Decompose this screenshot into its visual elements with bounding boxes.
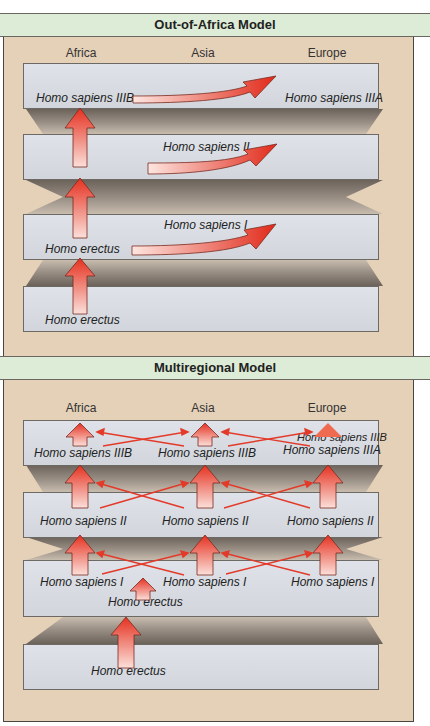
- curved-arrow-icon: [148, 144, 277, 174]
- arrowhead-icon: [181, 551, 188, 557]
- arrowhead-icon: [222, 551, 229, 557]
- up-arrow-icon: [65, 258, 95, 314]
- arrowhead-icon: [305, 429, 312, 435]
- arrowhead-icon: [97, 429, 104, 435]
- up-arrow-icon: [65, 178, 95, 238]
- up-arrow-icon: [190, 535, 220, 575]
- arrowhead-icon: [305, 481, 312, 487]
- curved-arrow-icon: [133, 76, 276, 103]
- up-arrow-icon: [314, 423, 342, 437]
- arrowhead-icon: [181, 429, 188, 435]
- arrowhead-icon: [97, 481, 104, 487]
- up-arrow-icon: [313, 465, 343, 508]
- migration-line: [102, 553, 186, 574]
- up-arrow-icon: [130, 578, 156, 600]
- up-arrow-icon: [191, 423, 219, 446]
- arrowhead-icon: [222, 429, 229, 435]
- arrows-layer: [0, 0, 430, 726]
- up-arrow-icon: [65, 535, 95, 575]
- up-arrow-icon: [66, 423, 94, 446]
- curved-arrow-icon: [132, 224, 276, 255]
- arrowhead-icon: [305, 551, 312, 557]
- up-arrow-icon: [65, 108, 95, 167]
- up-arrow-icon: [190, 465, 220, 508]
- up-arrow-icon: [313, 535, 343, 575]
- arrowhead-icon: [97, 551, 104, 557]
- up-arrow-icon: [111, 617, 141, 668]
- arrowhead-icon: [181, 481, 188, 487]
- up-arrow-icon: [65, 465, 95, 508]
- arrowhead-icon: [222, 481, 229, 487]
